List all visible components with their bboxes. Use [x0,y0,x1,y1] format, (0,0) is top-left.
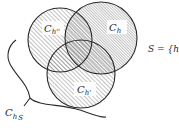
brace-label: ChS [5,107,23,122]
brace-tick [24,98,30,106]
set-label: S = {h} [148,44,179,54]
venn-diagram: Ch'' Ch Ch' S = {h} ChS [0,0,179,135]
